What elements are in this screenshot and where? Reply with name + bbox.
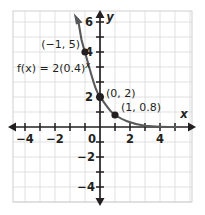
y-axis-label: y [106, 10, 114, 24]
y-tick-label-6: 6 [85, 15, 93, 29]
x-axis-arrow-left [8, 123, 16, 132]
y-tick-label-neg2: −2 [77, 150, 95, 164]
data-point-1-0.8 [111, 111, 118, 118]
exponential-decay-graph-figure: −4 −2 0 2 4 6 4 2 −2 −4 x y (−1, 5) (0, … [0, 0, 205, 215]
function-label-exponent: x [84, 60, 91, 70]
x-tick-label-neg4: −4 [16, 132, 34, 146]
point-label-neg1-5: (−1, 5) [41, 38, 80, 51]
x-tick-label-neg2: −2 [46, 132, 64, 146]
y-tick-label-neg4: −4 [77, 180, 95, 194]
x-tick-label-0: 0 [88, 132, 96, 146]
data-point-0-2 [96, 93, 104, 101]
x-tick-label-4: 4 [156, 132, 164, 146]
y-tick-label-4: 4 [85, 45, 93, 59]
point-label-0-2: (0, 2) [106, 87, 136, 100]
function-label: f(x) = 2(0.4)x [17, 60, 91, 75]
x-tick-label-2: 2 [126, 132, 134, 146]
y-tick-label-2: 2 [85, 90, 93, 104]
x-axis-label: x [179, 107, 188, 121]
coordinate-plane-svg: −4 −2 0 2 4 6 4 2 −2 −4 x y (−1, 5) (0, … [0, 0, 205, 215]
point-label-1-08: (1, 0.8) [121, 101, 161, 114]
function-label-main: f(x) = 2(0.4) [17, 62, 85, 75]
